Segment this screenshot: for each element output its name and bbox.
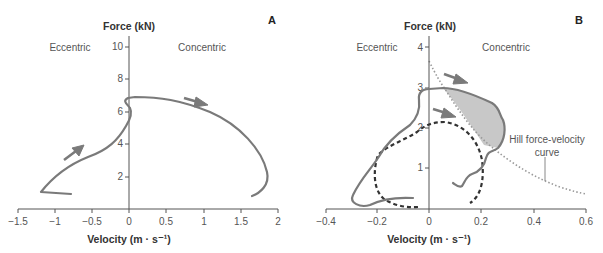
- svg-text:−1: −1: [49, 216, 61, 227]
- panel-a: A Force (kN) Eccentric Concentric 10 8 6…: [8, 14, 281, 245]
- panel-b-concentric-label: Concentric: [482, 42, 530, 53]
- panel-a-eccentric-label: Eccentric: [49, 42, 90, 53]
- panel-a-x-ticks: −1.5 −1 −0.5 0 0.5 1 1.5 2: [8, 209, 281, 227]
- svg-text:−0.5: −0.5: [82, 216, 102, 227]
- svg-text:1: 1: [417, 162, 423, 173]
- svg-text:2: 2: [117, 171, 123, 182]
- svg-text:4: 4: [417, 42, 423, 53]
- panel-a-label: A: [268, 14, 276, 26]
- panel-b-hill-curve: [429, 61, 586, 194]
- panel-b-arrow-lower: [433, 108, 456, 118]
- panel-b-label: B: [575, 14, 583, 26]
- panel-b-hill-label-1: Hill force-velocity: [509, 134, 585, 145]
- panel-b-arrow-upper: [444, 74, 468, 84]
- panel-a-x-title: Velocity (m · s⁻¹): [87, 233, 171, 245]
- svg-text:0: 0: [126, 216, 132, 227]
- svg-text:2: 2: [275, 216, 281, 227]
- panel-b-hill-label-2: curve: [535, 147, 560, 158]
- svg-text:4: 4: [117, 138, 123, 149]
- svg-text:−0.2: −0.2: [367, 216, 387, 227]
- svg-text:8: 8: [117, 73, 123, 84]
- panel-a-y-ticks: 10 8 6 4 2: [112, 41, 129, 182]
- figure: A Force (kN) Eccentric Concentric 10 8 6…: [0, 0, 603, 253]
- svg-text:1: 1: [201, 216, 207, 227]
- svg-text:0: 0: [426, 216, 432, 227]
- panel-a-concentric-label: Concentric: [178, 42, 226, 53]
- svg-text:0.5: 0.5: [159, 216, 173, 227]
- panel-a-y-title: Force (kN): [103, 20, 155, 32]
- svg-text:0.6: 0.6: [579, 216, 593, 227]
- panel-a-arrow-concentric: [184, 97, 208, 107]
- svg-text:0.4: 0.4: [527, 216, 541, 227]
- panel-b-x-ticks: −0.4 −0.2 0 0.2 0.4 0.6: [316, 209, 593, 227]
- svg-text:6: 6: [117, 106, 123, 117]
- panel-b-eccentric-label: Eccentric: [356, 42, 397, 53]
- panel-b-x-title: Velocity (m · s⁻¹): [387, 233, 471, 245]
- svg-text:0.2: 0.2: [474, 216, 488, 227]
- panel-a-arrow-eccentric: [64, 145, 84, 160]
- panel-b: B Force (kN) Eccentric Concentric Hill f…: [316, 14, 593, 245]
- svg-text:−0.4: −0.4: [316, 216, 336, 227]
- panel-a-force-velocity-curve: [41, 97, 268, 196]
- svg-text:1.5: 1.5: [234, 216, 248, 227]
- panel-b-y-title: Force (kN): [404, 20, 456, 32]
- svg-text:−1.5: −1.5: [8, 216, 28, 227]
- svg-text:10: 10: [112, 41, 124, 52]
